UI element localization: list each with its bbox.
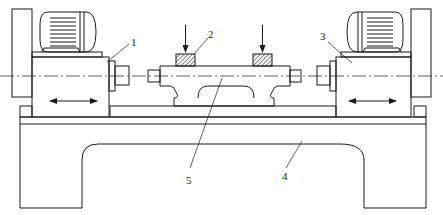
right-end-plate <box>411 9 431 97</box>
left-motor <box>32 12 102 57</box>
callout-2: 2 <box>208 28 214 40</box>
clamp-block-right <box>253 54 272 66</box>
left-end-plate <box>12 9 32 97</box>
callout-5: 5 <box>186 174 192 186</box>
bed <box>20 106 426 208</box>
right-motor <box>341 12 411 57</box>
left-head <box>32 57 129 117</box>
center-base-plate <box>110 106 336 117</box>
machine-diagram: 1 2 3 4 5 <box>0 0 443 215</box>
clamp-block-left <box>176 54 195 66</box>
clamp-blocks <box>176 25 272 66</box>
callout-3: 3 <box>320 30 326 42</box>
right-head <box>317 57 411 117</box>
workpiece-fixture <box>148 66 301 106</box>
leader-lines <box>107 38 352 168</box>
callout-4: 4 <box>282 170 288 182</box>
callout-1: 1 <box>131 36 137 48</box>
